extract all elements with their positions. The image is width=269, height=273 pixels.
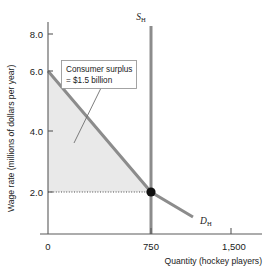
x-tick-label-1500: 1,500 <box>222 241 246 252</box>
supply-curve-label-sub: H <box>141 16 146 23</box>
equilibrium-point-marker <box>146 187 155 196</box>
x-tick-label-0: 0 <box>45 241 50 252</box>
callout-line-2: = $1.5 billion <box>66 76 113 85</box>
callout-line-1: Consumer surplus <box>66 65 132 74</box>
chart-plot-area: 8.0 6.0 4.0 2.0 0 750 1,500 Quantity (ho… <box>0 0 269 273</box>
y-tick-label-6: 6.0 <box>30 66 43 77</box>
x-axis-title: Quantity (hockey players) <box>165 256 263 266</box>
supply-curve-label: SH <box>136 12 146 23</box>
y-tick-label-2: 2.0 <box>30 187 43 198</box>
y-tick-label-8: 8.0 <box>30 29 43 40</box>
y-tick-label-4: 4.0 <box>30 126 43 137</box>
consumer-surplus-chart-figure: 8.0 6.0 4.0 2.0 0 750 1,500 Quantity (ho… <box>0 0 269 273</box>
x-tick-label-750: 750 <box>143 241 159 252</box>
demand-curve-label-sub: H <box>207 220 212 227</box>
demand-curve-label-main: D <box>199 216 207 226</box>
y-axis-title: Wage rate (millions of dollars per year) <box>6 65 16 212</box>
demand-curve-label: DH <box>199 216 212 227</box>
